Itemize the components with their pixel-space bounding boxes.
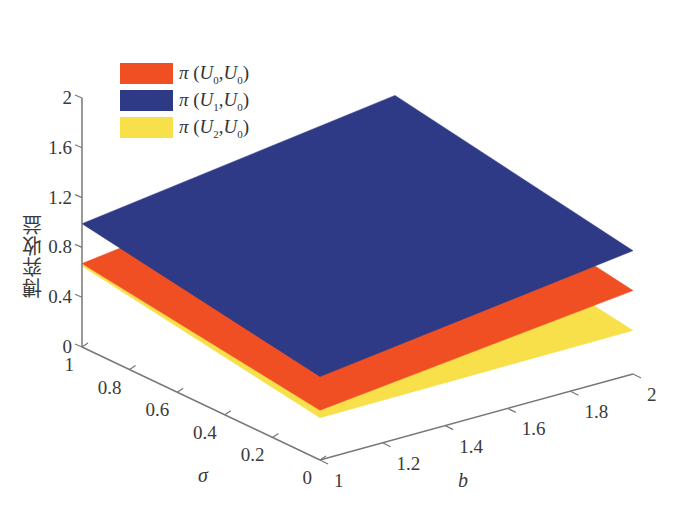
legend-item: π (U0,U0) — [120, 60, 249, 87]
legend-label: π (U0,U0) — [179, 62, 249, 86]
b-tick-label: 1.2 — [397, 453, 421, 474]
b-tick-label: 1.4 — [459, 436, 483, 457]
b-tick-label: 1.8 — [584, 401, 608, 422]
b-tick-label: 1 — [334, 470, 344, 491]
z-tick-label: 1.2 — [48, 187, 72, 208]
surfaces — [82, 95, 633, 417]
sigma-tick-label: 1 — [65, 354, 75, 375]
z-tick-label: 2 — [63, 87, 73, 108]
sigma-tick-label: 0.4 — [193, 422, 217, 443]
legend: π (U0,U0) π (U1,U0) π (U2,U0) — [120, 60, 249, 141]
legend-swatch-u1u0 — [120, 90, 173, 111]
sigma-tick-label: 0.2 — [241, 444, 265, 465]
legend-item: π (U1,U0) — [120, 87, 249, 114]
legend-label: π (U1,U0) — [179, 89, 249, 113]
b-axis-title: b — [458, 469, 468, 491]
b-tick-label: 1.6 — [522, 418, 546, 439]
surface-plot: 00.40.81.21.6200.20.40.60.8111.21.41.61.… — [0, 0, 676, 510]
sigma-tick-label: 0 — [303, 467, 313, 488]
b-tick-label: 2 — [647, 384, 657, 405]
sigma-tick-label: 0.8 — [98, 377, 122, 398]
legend-swatch-u2u0 — [120, 117, 173, 138]
z-axis-label: 博弈收益 — [18, 214, 47, 298]
legend-item: π (U2,U0) — [120, 114, 249, 141]
z-tick-label: 0.8 — [48, 236, 72, 257]
legend-label: π (U2,U0) — [179, 116, 249, 140]
sigma-axis-title: σ — [198, 464, 209, 486]
z-tick-label: 1.6 — [48, 137, 72, 158]
sigma-tick-label: 0.6 — [145, 399, 169, 420]
legend-swatch-u0u0 — [120, 63, 173, 84]
z-tick-label: 0.4 — [48, 286, 72, 307]
